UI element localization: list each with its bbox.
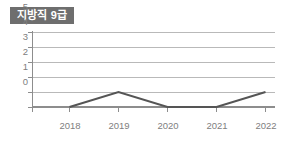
plot-area	[0, 26, 292, 116]
y-tick-label-5: 5	[12, 2, 28, 12]
x-tick-label-2021: 2021	[195, 120, 239, 131]
x-tick-label-2020: 2020	[146, 120, 190, 131]
x-tick-label-2018: 2018	[48, 120, 92, 131]
x-tick-label-2019: 2019	[97, 120, 141, 131]
chart-figure: 지방직 9급 5 4 3 2 1 0 2018 2019 2020	[0, 0, 292, 142]
x-tick-label-2022: 2022	[244, 120, 288, 131]
data-series-line	[70, 92, 266, 107]
